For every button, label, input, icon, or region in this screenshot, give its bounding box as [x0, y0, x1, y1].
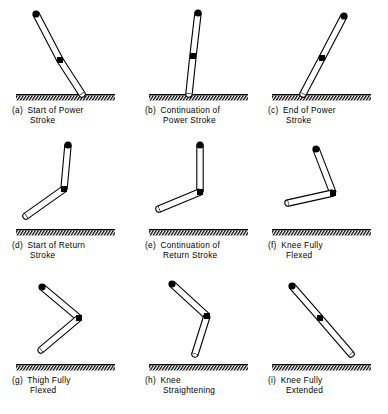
panel-g-caption-line1: Thigh Fully	[27, 375, 70, 385]
limb-drawing	[262, 2, 388, 106]
panel-a-caption-line1: Start of Power	[27, 105, 83, 115]
ground-hatching	[16, 230, 115, 235]
knee-joint-marker	[319, 55, 325, 61]
panel-h-caption-line2: Straightening	[139, 385, 268, 395]
panel-e-drawing	[139, 137, 268, 241]
hip-joint-marker	[64, 141, 71, 148]
panel-f-caption-line1: Knee Fully	[281, 240, 323, 250]
ground-line	[16, 229, 115, 230]
panel-i-caption: (i) Knee FullyExtended	[262, 375, 388, 395]
panel-a-caption: (a) Start of PowerStroke	[6, 105, 135, 125]
thigh-segment	[197, 145, 203, 192]
hip-joint-marker	[168, 280, 175, 287]
thigh-segment	[319, 15, 347, 60]
panel-i: (i) Knee FullyExtended	[262, 272, 388, 410]
panel-a: (a) Start of PowerStroke	[6, 2, 135, 140]
thigh-segment	[33, 13, 63, 62]
panel-f-caption: (f) Knee FullyFlexed	[262, 240, 388, 260]
ground-line	[272, 364, 371, 365]
ground-line	[272, 229, 371, 230]
knee-joint-marker	[76, 315, 82, 321]
ground-hatching	[272, 230, 371, 235]
shank-segment	[318, 316, 354, 356]
shank-segment	[287, 190, 333, 206]
limb-drawing	[6, 2, 135, 106]
panel-g-caption: (g) Thigh FullyFlexed	[6, 375, 135, 395]
ground-line	[16, 94, 115, 95]
shank-segment	[39, 316, 81, 353]
gait-cycle-figure: (a) Start of PowerStroke(b) Continuation…	[0, 0, 388, 414]
thigh-segment	[190, 13, 201, 57]
shank-segment	[192, 315, 210, 355]
panel-b-drawing	[139, 2, 268, 106]
hip-joint-marker	[312, 145, 319, 152]
panel-h-caption-line1: Knee	[160, 375, 180, 385]
hip-joint-marker	[38, 283, 45, 290]
shank-segment	[300, 57, 325, 96]
hip-joint-marker	[196, 141, 203, 148]
limb-drawing	[6, 137, 135, 241]
panel-e-caption-line1: Continuation of	[160, 240, 220, 250]
hip-joint-marker	[288, 282, 295, 289]
panel-e: (e) Continuation ofReturn Stroke	[139, 137, 268, 275]
ground-line	[149, 364, 248, 365]
limb-drawing	[262, 137, 388, 241]
ground-hatching	[149, 365, 248, 370]
panel-h-tag: (h)	[145, 375, 156, 385]
ground-hatching	[272, 365, 371, 370]
ground-hatching	[16, 95, 115, 100]
panel-i-caption-line1: Knee Fully	[281, 375, 323, 385]
ground-hatching	[272, 95, 371, 100]
thigh-segment	[170, 282, 209, 319]
shank-segment	[158, 189, 201, 212]
panel-f-drawing	[262, 137, 388, 241]
knee-joint-marker	[57, 57, 63, 63]
knee-joint-marker	[190, 53, 196, 59]
panel-d-caption-line2: Stroke	[6, 250, 135, 260]
panel-i-drawing	[262, 272, 388, 376]
thigh-segment	[290, 284, 323, 320]
panel-b-tag: (b)	[145, 105, 156, 115]
hip-joint-marker	[32, 10, 39, 17]
panel-c-caption: (c) End of PowerStroke	[262, 105, 388, 125]
panel-g-caption-line2: Flexed	[6, 385, 135, 395]
shank-segment	[24, 186, 66, 218]
thigh-segment	[313, 148, 336, 194]
panel-c-caption-line1: End of Power	[283, 105, 336, 115]
panel-b-caption-line1: Continuation of	[160, 105, 220, 115]
limb-drawing	[262, 272, 388, 376]
ground-hatching	[149, 95, 248, 100]
limb-drawing	[139, 2, 268, 106]
panel-g: (g) Thigh FullyFlexed	[6, 272, 135, 410]
knee-joint-marker	[197, 189, 203, 195]
panel-f-tag: (f)	[268, 240, 277, 250]
panel-d-caption-line1: Start of Return	[27, 240, 85, 250]
limb-drawing	[139, 137, 268, 241]
ground-hatching	[16, 365, 115, 370]
ground-line	[272, 94, 371, 95]
panel-a-drawing	[6, 2, 135, 106]
ground-line	[149, 94, 248, 95]
panel-f-caption-line2: Flexed	[262, 250, 388, 260]
knee-joint-marker	[204, 313, 210, 319]
panel-g-drawing	[6, 272, 135, 376]
panel-d: (d) Start of ReturnStroke	[6, 137, 135, 275]
knee-joint-marker	[61, 186, 67, 192]
panel-h: (h) KneeStraightening	[139, 272, 268, 410]
panel-c-tag: (c)	[268, 105, 278, 115]
panel-i-caption-line2: Extended	[262, 385, 388, 395]
knee-joint-marker	[317, 315, 323, 321]
panel-a-caption-line2: Stroke	[6, 115, 135, 125]
limb-drawing	[6, 272, 135, 376]
panel-b-caption: (b) Continuation ofPower Stroke	[139, 105, 268, 125]
ground-line	[149, 229, 248, 230]
panel-e-tag: (e)	[145, 240, 156, 250]
panel-a-tag: (a)	[12, 105, 23, 115]
hip-joint-marker	[340, 12, 347, 19]
thigh-segment	[61, 145, 71, 190]
ground-line	[16, 364, 115, 365]
panel-e-caption: (e) Continuation ofReturn Stroke	[139, 240, 268, 260]
knee-joint-marker	[330, 190, 336, 196]
panel-c-drawing	[262, 2, 388, 106]
shank-segment	[57, 58, 84, 95]
